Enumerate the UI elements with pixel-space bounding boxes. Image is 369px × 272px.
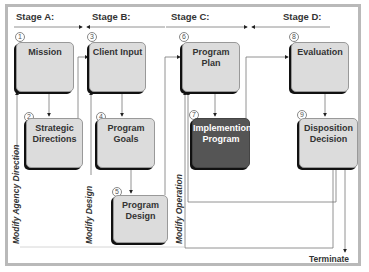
box-program-design[interactable]: Program Design (113, 195, 168, 243)
modify-operation-label: Modify Operation (174, 174, 184, 244)
box-program-goals[interactable]: Program Goals (97, 118, 155, 168)
modify-design-label: Modify Design (84, 186, 94, 244)
step-number-6: 6 (179, 32, 189, 42)
box-strategic-directions[interactable]: Strategic Directions (26, 118, 83, 168)
stage-d-label: Stage D: (283, 11, 322, 22)
modify-agency-direction-label: Modify Agency Direction (11, 145, 21, 244)
step-number-3: 3 (87, 32, 97, 42)
terminate-label: Terminate (309, 254, 349, 264)
box-mission[interactable]: Mission (16, 42, 74, 92)
stage-b-label: Stage B: (92, 11, 131, 22)
step-number-1: 1 (15, 32, 25, 42)
box-disposition-decision[interactable]: Disposition Decision (299, 118, 358, 168)
box-evaluation[interactable]: Evaluation (291, 42, 349, 92)
stage-a-label: Stage A: (16, 11, 54, 22)
stage-c-label: Stage C: (171, 11, 210, 22)
box-client-input[interactable]: Client Input (89, 42, 146, 92)
box-program-plan[interactable]: Program Plan (182, 42, 240, 92)
step-number-8: 8 (289, 32, 299, 42)
box-implementation-program[interactable]: Implemention Program (192, 118, 250, 168)
